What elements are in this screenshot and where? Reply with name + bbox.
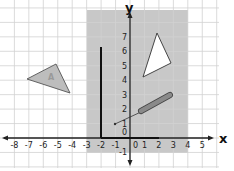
y-tick-label: 5 bbox=[122, 62, 127, 71]
coordinate-grid-diagram: y x -8-7-6-5-4-3-2-1012345 -101234567 A bbox=[0, 0, 234, 171]
x-tick-label: -2 bbox=[97, 141, 105, 150]
x-tick-label: 4 bbox=[185, 141, 190, 150]
x-tick-label: 5 bbox=[200, 141, 205, 150]
y-tick-label: 7 bbox=[122, 33, 127, 42]
x-tick-label: -8 bbox=[10, 141, 18, 150]
shaded-region-top bbox=[87, 10, 188, 18]
x-tick-label: -7 bbox=[25, 141, 33, 150]
x-tick-label: 3 bbox=[171, 141, 176, 150]
x-tick-label: -5 bbox=[54, 141, 62, 150]
y-tick-label: 2 bbox=[122, 105, 127, 114]
triangle-a-label: A bbox=[48, 73, 55, 82]
x-tick-label: 2 bbox=[156, 141, 161, 150]
x-tick-label: 1 bbox=[142, 141, 147, 150]
x-tick-label: -4 bbox=[68, 141, 76, 150]
x-tick-label: 0 bbox=[133, 141, 138, 150]
y-tick-label: 3 bbox=[122, 91, 127, 100]
y-tick-label: 1 bbox=[122, 120, 127, 129]
x-axis-name: x bbox=[219, 131, 228, 146]
x-tick-label: -3 bbox=[83, 141, 91, 150]
y-tick-label: -1 bbox=[119, 148, 127, 157]
y-tick-label: 0 bbox=[122, 128, 127, 137]
shaded-region bbox=[87, 18, 188, 153]
thin-line-endpoint bbox=[114, 123, 116, 125]
y-tick-label: 6 bbox=[122, 47, 127, 56]
y-tick-label: 4 bbox=[122, 76, 127, 85]
x-tick-label: -6 bbox=[39, 141, 47, 150]
y-axis-name: y bbox=[125, 0, 134, 15]
